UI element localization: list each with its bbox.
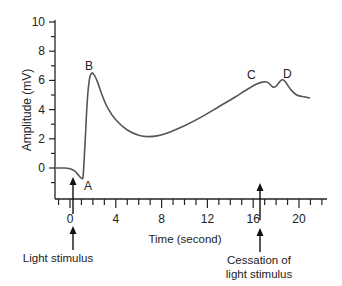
y-ticks: 0246810	[32, 15, 55, 183]
amplitude-time-chart: 0246810 048121620 Amplitude (mV) Time (s…	[0, 0, 342, 286]
y-tick-label: 0	[38, 161, 45, 175]
y-tick-label: 2	[38, 132, 45, 146]
x-tick-label: 12	[201, 212, 215, 226]
x-tick-label: 8	[158, 212, 165, 226]
point-a-label: A	[84, 179, 92, 193]
x-tick-label: 4	[112, 212, 119, 226]
y-tick-label: 10	[32, 15, 46, 29]
cessation-arrow-below	[257, 228, 264, 252]
response-curve	[55, 73, 309, 179]
cessation-label-line2: light stimulus	[226, 268, 293, 280]
point-b-label: B	[85, 59, 93, 73]
y-tick-label: 4	[38, 103, 45, 117]
x-axis-label: Time (second)	[148, 233, 221, 245]
cessation-label-line1: Cessation of	[227, 254, 292, 266]
y-tick-label: 6	[38, 73, 45, 87]
light-stimulus-arrow-below	[70, 226, 77, 250]
y-tick-label: 8	[38, 44, 45, 58]
y-axis-label: Amplitude (mV)	[20, 69, 34, 152]
point-d-label: D	[283, 67, 292, 81]
axes	[55, 20, 327, 199]
light-stimulus-arrow-up	[70, 177, 77, 214]
x-ticks: 048121620	[59, 199, 322, 226]
point-c-label: C	[247, 68, 256, 82]
light-stimulus-label: Light stimulus	[23, 252, 94, 264]
x-tick-label: 20	[292, 212, 306, 226]
x-tick-label: 0	[67, 212, 74, 226]
x-tick-label: 16	[247, 212, 261, 226]
